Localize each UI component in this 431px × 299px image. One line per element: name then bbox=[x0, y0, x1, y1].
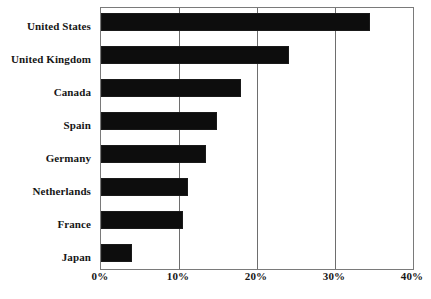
bar-france bbox=[101, 211, 183, 229]
category-label-united-states: United States bbox=[0, 20, 91, 32]
bar-japan bbox=[101, 244, 132, 262]
category-label-netherlands: Netherlands bbox=[0, 185, 91, 197]
xtick-label-0: 0% bbox=[92, 270, 109, 282]
xtick-label-20: 20% bbox=[245, 270, 268, 282]
bar-germany bbox=[101, 145, 206, 163]
xtick-label-40: 40% bbox=[401, 270, 424, 282]
category-label-canada: Canada bbox=[0, 86, 91, 98]
bars-layer bbox=[101, 8, 413, 269]
horizontal-bar-chart: United States United Kingdom Canada Spai… bbox=[0, 0, 431, 299]
category-label-united-kingdom: United Kingdom bbox=[0, 53, 91, 65]
bar-netherlands bbox=[101, 178, 188, 196]
category-label-france: France bbox=[0, 218, 91, 230]
bar-united-states bbox=[101, 13, 370, 31]
bar-spain bbox=[101, 112, 217, 130]
category-axis: United States United Kingdom Canada Spai… bbox=[0, 7, 97, 268]
xtick-label-10: 10% bbox=[167, 270, 190, 282]
category-label-japan: Japan bbox=[0, 251, 91, 263]
bar-united-kingdom bbox=[101, 46, 289, 64]
plot-area bbox=[100, 7, 414, 270]
xtick-label-30: 30% bbox=[323, 270, 346, 282]
bar-canada bbox=[101, 79, 241, 97]
category-label-spain: Spain bbox=[0, 119, 91, 131]
category-label-germany: Germany bbox=[0, 152, 91, 164]
value-axis: 0% 10% 20% 30% 40% bbox=[100, 270, 414, 290]
